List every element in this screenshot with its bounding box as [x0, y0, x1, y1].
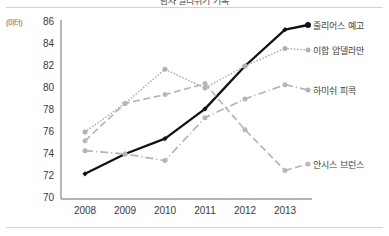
- data-point-1-4[interactable]: [243, 64, 248, 69]
- data-point-3-0[interactable]: [83, 138, 88, 143]
- legend-item-ansis-bruns[interactable]: 안시스 브런스: [313, 158, 364, 171]
- series-line-1: [85, 48, 285, 132]
- bottom-divider: [6, 227, 383, 228]
- data-point-3-1[interactable]: [123, 101, 128, 106]
- data-point-2-3[interactable]: [203, 115, 208, 120]
- legend-connector-0: [285, 25, 308, 30]
- series-layer: [82, 22, 311, 176]
- data-point-3-2[interactable]: [163, 92, 168, 97]
- chart-container: 남자 멀리뛰기 기록 (미터) 86 84 82 80 78 76 74 72 …: [0, 0, 389, 236]
- data-point-2-1[interactable]: [123, 152, 128, 157]
- series-line-0: [85, 30, 285, 174]
- legend-item-julius-yego[interactable]: 줄리어스 예고: [313, 19, 364, 32]
- series-line-3: [85, 84, 285, 171]
- legend-item-ihab-abdelrahman[interactable]: 이합 압델라만: [313, 44, 364, 57]
- data-point-3-4[interactable]: [243, 127, 248, 132]
- legend-item-hamish-peacock[interactable]: 하미쉬 피콕: [313, 84, 356, 97]
- legend-marker-3: [306, 162, 311, 167]
- legend-connector-1: [285, 48, 308, 50]
- legend-marker-0: [305, 22, 311, 28]
- data-point-1-2[interactable]: [163, 67, 168, 72]
- legend-marker-2: [306, 88, 311, 93]
- data-point-2-0[interactable]: [83, 148, 88, 153]
- data-point-2-4[interactable]: [243, 97, 248, 102]
- legend-connector-3: [285, 164, 308, 171]
- legend-connector-2: [285, 85, 308, 90]
- data-point-2-2[interactable]: [163, 158, 168, 163]
- data-point-1-0[interactable]: [83, 130, 88, 135]
- legend-marker-1: [306, 48, 311, 53]
- plot-area: [0, 0, 389, 236]
- data-point-3-3[interactable]: [203, 81, 208, 86]
